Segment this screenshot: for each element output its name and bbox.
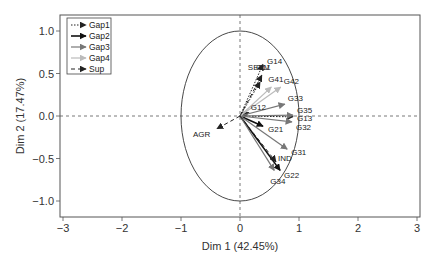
- arrow-agr: [217, 116, 240, 129]
- x-tick-label: −1: [175, 222, 188, 234]
- y-axis-title: Dim 2 (17.47%): [14, 78, 26, 154]
- legend-item-sup: Sup: [89, 64, 104, 74]
- label-g33: G33: [288, 94, 304, 103]
- label-ind: IND: [278, 154, 292, 163]
- x-tick-label: 1: [296, 222, 302, 234]
- y-tick-label: 0.0: [39, 110, 54, 122]
- legend-item-gap4: Gap4: [89, 53, 110, 63]
- y-tick-label: 1.0: [39, 25, 54, 37]
- y-tick-label: −0.5: [32, 153, 54, 165]
- label-g34: G34: [270, 177, 286, 186]
- arrow-ind: [240, 116, 276, 162]
- label-agr: AGR: [193, 130, 211, 139]
- label-g21: G21: [268, 125, 284, 134]
- x-tick-label: −3: [57, 222, 70, 234]
- y-tick-label: 0.5: [39, 68, 54, 80]
- label-g41: G41: [268, 75, 284, 84]
- legend-item-gap2: Gap2: [89, 31, 110, 41]
- label-g42: G42: [284, 77, 300, 86]
- x-axis: −3−2−10123: [57, 217, 420, 234]
- label-serv: SERV: [248, 63, 270, 72]
- x-tick-label: 2: [355, 222, 361, 234]
- label-g22: G22: [284, 171, 300, 180]
- label-g31: G31: [291, 148, 307, 157]
- x-tick-label: −2: [116, 222, 129, 234]
- arrow-g35: [240, 115, 293, 116]
- pca-chart: G11G12G13G14G21G22G31G32G33G34G35G41G42A…: [0, 0, 438, 262]
- label-g35: G35: [297, 106, 313, 115]
- legend: Gap1Gap2Gap3Gap4Sup: [67, 18, 111, 74]
- label-g12: G12: [251, 103, 267, 112]
- x-axis-title: Dim 1 (42.45%): [202, 240, 278, 252]
- legend-item-gap1: Gap1: [89, 20, 110, 30]
- x-tick-label: 0: [237, 222, 243, 234]
- y-axis: 1.00.50.0−0.5−1.0: [32, 25, 60, 207]
- legend-item-gap3: Gap3: [89, 42, 110, 52]
- y-tick-label: −1.0: [32, 195, 54, 207]
- x-tick-label: 3: [414, 222, 420, 234]
- label-g13: G13: [297, 114, 313, 123]
- label-g32: G32: [296, 123, 312, 132]
